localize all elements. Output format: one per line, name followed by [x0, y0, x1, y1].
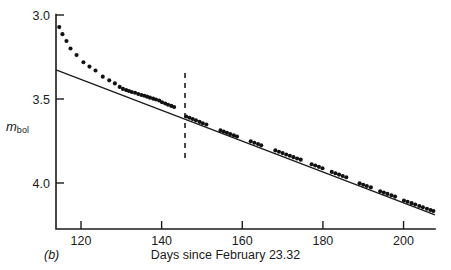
x-tick-label: 140 [151, 234, 172, 248]
data-point [413, 202, 417, 206]
data-point [68, 46, 72, 50]
data-point [284, 152, 288, 156]
data-point [333, 171, 337, 175]
data-point [277, 150, 281, 154]
data-point [235, 134, 239, 138]
data-point [93, 68, 97, 72]
data-point [107, 78, 111, 82]
x-tick-label: 120 [71, 234, 92, 248]
y-axis-tick-labels: 3.03.54.0 [33, 9, 50, 191]
y-tick-label: 3.0 [33, 9, 50, 23]
data-point [425, 207, 429, 211]
data-point [320, 166, 324, 170]
y-axis-title-symbol: m [6, 119, 17, 134]
data-point [317, 165, 321, 169]
data-point [361, 183, 365, 187]
data-point [201, 121, 205, 125]
data-point [194, 118, 198, 122]
data-point [393, 195, 397, 199]
data-point [330, 170, 334, 174]
y-axis-ticks [56, 15, 64, 183]
data-point [369, 185, 373, 189]
data-point [259, 143, 263, 147]
data-point [101, 75, 105, 79]
x-tick-label: 160 [232, 234, 253, 248]
data-point [421, 205, 425, 209]
data-point [87, 65, 91, 69]
data-point [310, 162, 314, 166]
data-point [417, 204, 421, 208]
data-point [389, 193, 393, 197]
data-point [291, 155, 295, 159]
data-point-group [57, 25, 435, 213]
y-tick-label: 4.0 [33, 177, 50, 191]
x-axis-tick-labels: 120140160180200 [71, 234, 414, 248]
scatter-plot-canvas: 3.03.54.0 120140160180200 [0, 0, 451, 270]
data-point [273, 148, 277, 152]
data-point [341, 174, 345, 178]
y-axis-title-subscript: bol [17, 125, 29, 135]
data-point [365, 184, 369, 188]
data-point [402, 198, 406, 202]
x-tick-label: 180 [312, 234, 333, 248]
data-point [228, 132, 232, 136]
data-point [64, 39, 68, 43]
data-point [81, 60, 85, 64]
data-point [358, 181, 362, 185]
y-axis-title: mbol [6, 119, 29, 135]
data-point [252, 141, 256, 145]
data-point [378, 189, 382, 193]
data-point [410, 201, 414, 205]
data-point [57, 25, 61, 29]
y-tick-label: 3.5 [33, 93, 50, 107]
data-point [431, 209, 435, 213]
data-point [344, 175, 348, 179]
x-axis-ticks [81, 221, 404, 229]
data-point [406, 200, 410, 204]
data-point [249, 139, 253, 143]
data-point [385, 192, 389, 196]
x-tick-label: 200 [393, 234, 414, 248]
axes: 3.03.54.0 120140160180200 [33, 9, 435, 249]
data-point [281, 151, 285, 155]
data-point [337, 173, 341, 177]
data-point [60, 32, 64, 36]
data-point [288, 154, 292, 158]
panel-label: (b) [44, 248, 59, 262]
data-point [382, 191, 386, 195]
data-point [172, 105, 176, 109]
figure-panel-b: 3.03.54.0 120140160180200 mbol Days sinc… [0, 0, 451, 270]
data-point [204, 122, 208, 126]
linear-fit-line [56, 70, 435, 215]
axis-lines [56, 15, 435, 230]
x-axis-title: Days since February 23.32 [0, 248, 451, 262]
data-point [299, 158, 303, 162]
data-point [313, 163, 317, 167]
data-point [113, 81, 117, 85]
data-point [75, 53, 79, 57]
data-point [295, 156, 299, 160]
